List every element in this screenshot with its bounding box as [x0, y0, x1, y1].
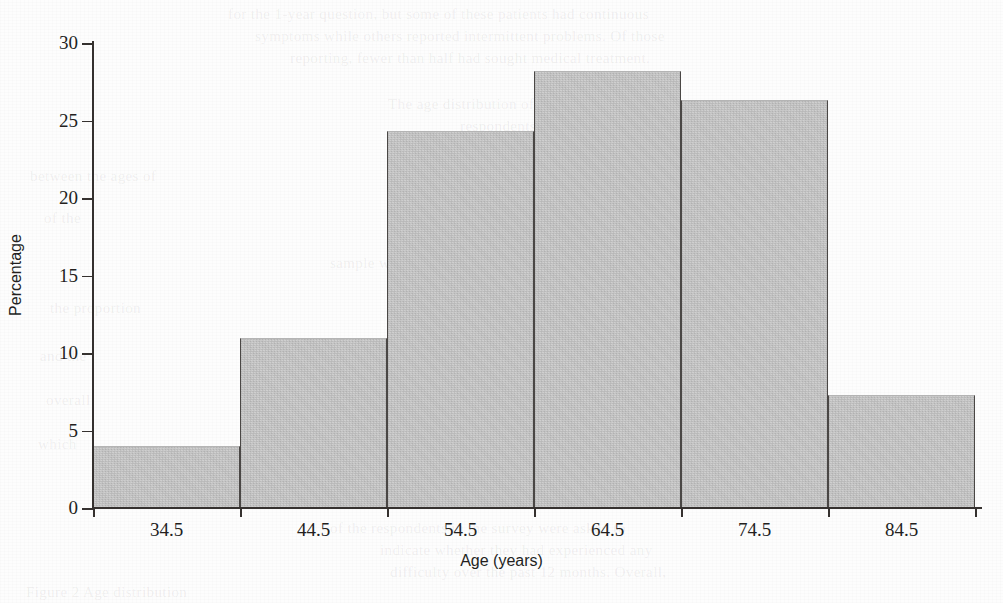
histogram-bar: [240, 338, 387, 509]
x-axis-tick-label: 74.5: [738, 519, 771, 541]
y-axis-tick: [82, 431, 93, 433]
x-axis-tick: [93, 508, 95, 517]
y-axis-tick: [82, 43, 93, 45]
y-axis-tick-label: 5: [34, 420, 78, 442]
x-axis-tick: [240, 508, 242, 517]
y-axis-tick-label: 15: [34, 265, 78, 287]
x-axis-tick-label: 54.5: [444, 519, 477, 541]
y-axis-tick: [82, 508, 93, 510]
histogram-bar: [534, 71, 681, 508]
x-axis-tick-label: 84.5: [885, 519, 918, 541]
y-axis-tick-label: 30: [34, 32, 78, 54]
y-axis-title: Percentage: [7, 234, 25, 316]
x-axis-tick: [975, 508, 977, 517]
y-axis-tick: [82, 353, 93, 355]
y-axis-tick-label: 25: [34, 110, 78, 132]
y-axis-tick-label: 20: [34, 187, 78, 209]
histogram-bar: [681, 100, 828, 508]
plot-area: [93, 43, 975, 508]
x-axis-tick-label: 44.5: [297, 519, 330, 541]
x-axis-tick: [828, 508, 830, 517]
y-axis-tick-label: 10: [34, 342, 78, 364]
x-axis-line: [92, 507, 982, 509]
histogram-bar: [828, 395, 975, 508]
age-distribution-histogram: 051015202530 34.544.554.564.574.584.5 Pe…: [0, 0, 1003, 603]
y-axis-tick: [82, 121, 93, 123]
y-axis-tick: [82, 198, 93, 200]
x-axis-tick-label: 64.5: [591, 519, 624, 541]
histogram-bar: [387, 131, 534, 508]
y-axis-tick: [82, 276, 93, 278]
x-axis-title: Age (years): [0, 552, 1003, 570]
y-axis-tick-label: 0: [34, 497, 78, 519]
x-axis-tick: [387, 508, 389, 517]
x-axis-tick: [534, 508, 536, 517]
x-axis-tick: [681, 508, 683, 517]
histogram-bar: [93, 446, 240, 508]
x-axis-tick-label: 34.5: [150, 519, 183, 541]
